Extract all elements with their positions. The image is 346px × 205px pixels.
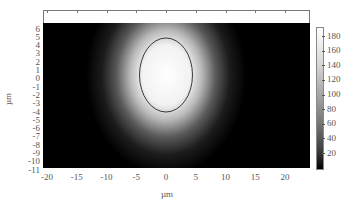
colorbar-tick-label: 160 bbox=[327, 46, 341, 55]
x-tick-label: 0 bbox=[154, 172, 178, 182]
x-tick-label: 20 bbox=[273, 172, 297, 182]
colorbar-tick-mark bbox=[322, 95, 325, 96]
colorbar-tick-mark bbox=[322, 36, 325, 37]
y-axis-label: µm bbox=[3, 93, 13, 105]
x-tick-label: 10 bbox=[214, 172, 238, 182]
colorbar-tick-mark bbox=[322, 51, 325, 52]
x-tick-label: -5 bbox=[124, 172, 148, 182]
x-tick-label: -20 bbox=[35, 172, 59, 182]
colorbar-tick-label: 140 bbox=[327, 61, 341, 70]
colorbar-tick-mark bbox=[322, 153, 325, 154]
colorbar-tick-label: 80 bbox=[327, 105, 336, 114]
x-tick-mark bbox=[47, 10, 48, 13]
colorbar-tick-label: 60 bbox=[327, 119, 336, 128]
x-tick-mark bbox=[77, 10, 78, 13]
x-axis-label: µm bbox=[155, 189, 179, 199]
colorbar-tick-mark bbox=[322, 124, 325, 125]
x-tick-mark bbox=[255, 10, 256, 13]
x-tick-label: -15 bbox=[65, 172, 89, 182]
x-tick-label: 15 bbox=[243, 172, 267, 182]
colorbar-tick-label: 40 bbox=[327, 134, 336, 143]
x-tick-label: 5 bbox=[184, 172, 208, 182]
x-tick-mark bbox=[196, 10, 197, 13]
colorbar-tick-label: 20 bbox=[327, 149, 336, 158]
colorbar bbox=[316, 27, 324, 170]
x-tick-mark bbox=[285, 10, 286, 13]
colorbar-tick-mark bbox=[322, 138, 325, 139]
colorbar-tick-mark bbox=[322, 109, 325, 110]
colorbar-tick-label: 180 bbox=[327, 32, 341, 41]
x-tick-mark bbox=[226, 10, 227, 13]
x-tick-label: -10 bbox=[95, 172, 119, 182]
x-tick-mark bbox=[107, 10, 108, 13]
x-tick-mark bbox=[166, 10, 167, 13]
colorbar-tick-mark bbox=[322, 80, 325, 81]
beam-spot bbox=[43, 23, 310, 168]
colorbar-tick-mark bbox=[322, 65, 325, 66]
x-tick-mark bbox=[136, 10, 137, 13]
colorbar-tick-label: 100 bbox=[327, 90, 341, 99]
colorbar-tick-label: 120 bbox=[327, 75, 341, 84]
intensity-image bbox=[43, 23, 310, 168]
